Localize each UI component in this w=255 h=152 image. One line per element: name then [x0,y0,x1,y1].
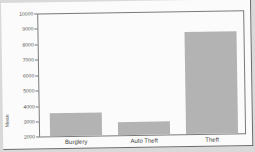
y-tick-mark [34,13,37,14]
y-tick-mark [36,136,39,137]
y-tick-mark [35,90,38,91]
y-tick-5000: 5000 [4,87,34,93]
y-tick-6000: 6000 [4,72,34,78]
y-tick-mark [35,59,38,60]
x-label-auto-theft: Auto Theft [114,137,174,144]
y-tick-9000: 9000 [3,25,33,31]
y-tick-7000: 7000 [4,56,34,62]
chart-page: 10000 9000 8000 7000 6000 5000 4000 3000… [1,0,253,150]
y-tick-mark [34,28,37,29]
y-axis-label: Mean [4,114,10,127]
y-tick-2000: 2000 [5,133,35,139]
y-tick-8000: 8000 [4,41,34,47]
bar-auto-theft [118,121,170,135]
y-tick-10000: 10000 [3,10,33,16]
y-tick-mark [36,106,39,107]
x-label-burglery: Burglery [46,138,106,145]
plot-area [37,10,246,137]
bar-theft [184,31,238,134]
y-tick-mark [36,121,39,122]
bar-burglery [50,112,102,136]
y-tick-4000: 4000 [5,103,35,109]
y-tick-mark [35,75,38,76]
x-label-theft: Theft [182,136,242,143]
y-tick-mark [35,44,38,45]
